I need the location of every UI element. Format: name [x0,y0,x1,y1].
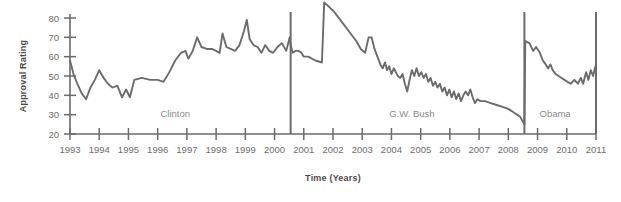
y-tick-label: 60 [48,51,59,62]
x-tick-label: 1996 [147,144,168,155]
era-label-obama: Obama [540,108,572,119]
x-tick-label: 2010 [556,144,577,155]
x-tick-label: 2007 [469,144,490,155]
y-tick-label: 20 [48,129,59,140]
x-tick-label: 1993 [59,144,80,155]
x-tick-label: 2001 [293,144,314,155]
y-axis: 20304050607080 [48,13,76,140]
x-tick-label: 2002 [322,144,343,155]
y-tick-label: 80 [48,13,59,24]
x-tick-label: 2006 [439,144,460,155]
x-tick-label: 2005 [410,144,431,155]
approval-line-series [70,3,595,125]
x-tick-label: 1999 [235,144,256,155]
chart-canvas: 20304050607080 1993199419951996199719981… [0,0,621,202]
x-tick-label: 2009 [527,144,548,155]
x-tick-label: 2008 [498,144,519,155]
y-tick-label: 40 [48,90,59,101]
approval-rating-line [70,3,595,125]
x-tick-label: 1997 [176,144,197,155]
x-tick-label: 1998 [206,144,227,155]
x-tick-label: 2003 [352,144,373,155]
y-tick-label: 70 [48,32,59,43]
era-label-g-w-bush: G.W. Bush [389,108,434,119]
y-axis-title: Approval Rating [18,40,28,113]
x-tick-label: 1995 [118,144,139,155]
y-tick-label: 50 [48,71,59,82]
y-tick-label: 30 [48,109,59,120]
approval-rating-chart: 20304050607080 1993199419951996199719981… [0,0,621,202]
x-tick-label: 2004 [381,144,402,155]
x-axis-title: Time (Years) [305,173,361,183]
era-label-clinton: Clinton [160,108,190,119]
x-tick-label: 2011 [586,144,606,155]
x-tick-label: 2000 [264,144,285,155]
x-tick-label: 1994 [89,144,110,155]
